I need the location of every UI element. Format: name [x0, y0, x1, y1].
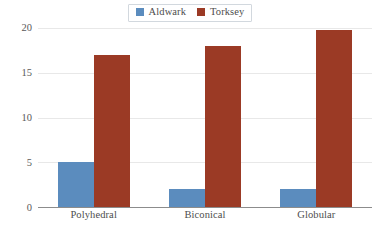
y-tick-20: 20: [0, 23, 32, 34]
legend-label-torksey: Torksey: [210, 7, 244, 18]
x-axis-line: [38, 207, 372, 208]
x-label-biconical: Biconical: [149, 210, 260, 221]
bar-group-polyhedral: [38, 28, 149, 207]
legend-swatch-torksey: [197, 8, 205, 16]
plot-area: [38, 28, 372, 208]
bar-aldwark-biconical[interactable]: [169, 189, 205, 207]
y-tick-0: 0: [0, 203, 32, 214]
bar-group-biconical: [149, 28, 260, 207]
legend-item-aldwark[interactable]: Aldwark: [136, 7, 186, 18]
y-tick-5: 5: [0, 158, 32, 169]
bar-torksey-polyhedral[interactable]: [94, 55, 130, 207]
legend-box: Aldwark Torksey: [128, 4, 253, 22]
x-axis-labels: Polyhedral Biconical Globular: [38, 210, 372, 221]
bar-chart: Aldwark Torksey 20 15 10 5 0: [0, 0, 380, 234]
bar-groups: [38, 28, 372, 207]
legend-swatch-aldwark: [136, 8, 144, 16]
bar-aldwark-polyhedral[interactable]: [58, 162, 94, 207]
bar-torksey-biconical[interactable]: [205, 46, 241, 207]
chart-legend: Aldwark Torksey: [0, 4, 380, 22]
y-axis-labels: 20 15 10 5 0: [0, 28, 32, 208]
bar-aldwark-globular[interactable]: [280, 189, 316, 207]
x-label-globular: Globular: [261, 210, 372, 221]
bar-group-globular: [261, 28, 372, 207]
y-tick-15: 15: [0, 68, 32, 79]
legend-item-torksey[interactable]: Torksey: [197, 7, 244, 18]
y-tick-10: 10: [0, 113, 32, 124]
legend-label-aldwark: Aldwark: [149, 7, 186, 18]
bar-torksey-globular[interactable]: [316, 30, 352, 207]
x-label-polyhedral: Polyhedral: [38, 210, 149, 221]
